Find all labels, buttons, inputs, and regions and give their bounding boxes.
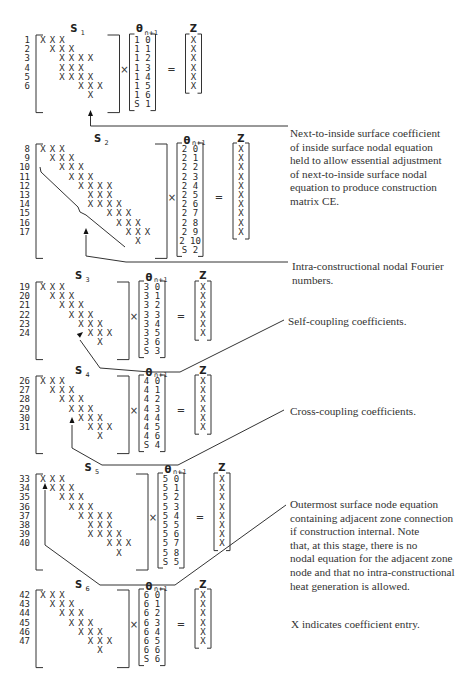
- coefficient-entry: X: [40, 35, 46, 45]
- z-left-bracket: [186, 34, 190, 93]
- z-label: Z: [199, 365, 206, 376]
- row-number: 31: [19, 422, 30, 432]
- z-right-bracket: [198, 34, 202, 93]
- left-bracket: [36, 35, 43, 113]
- left-bracket: [36, 474, 43, 570]
- coefficient-entry: X: [97, 337, 103, 347]
- coefficient-entry: X: [59, 492, 65, 502]
- theta-entry: S 2: [182, 245, 198, 255]
- theta-label: θ: [165, 464, 172, 475]
- coefficient-entry: X: [97, 431, 103, 441]
- theta-subscript: n+1: [154, 276, 168, 284]
- annotation-fourier-numbers: Intra-constructional nodal Fourier numbe…: [292, 260, 444, 287]
- z-entry: X: [200, 636, 206, 646]
- annotation-self-coupling: Self-coupling coefficients.: [288, 315, 406, 329]
- z-label: Z: [218, 462, 225, 473]
- left-bracket: [36, 282, 43, 360]
- matrix-subscript: 5: [95, 468, 99, 476]
- legend-coefficient-entry: X indicates coefficient entry.: [291, 618, 420, 632]
- theta-right-bracket: [160, 589, 165, 666]
- coefficient-entry: X: [126, 538, 132, 548]
- multiply-sign: ×: [168, 192, 176, 203]
- construction-matrix-diagram: 123456XXXXXXXXXXXXXXXXXXXXXS11 01 11 21 …: [0, 0, 468, 690]
- coefficient-entry: X: [88, 90, 94, 100]
- row-number: 47: [19, 636, 30, 646]
- coefficient-entry: X: [88, 636, 94, 646]
- coefficient-entry: X: [126, 227, 132, 237]
- coefficient-entry: X: [40, 590, 46, 600]
- arrowhead-icon: [77, 332, 83, 338]
- coefficient-entry: X: [97, 199, 103, 209]
- theta-entry: S 5: [163, 557, 179, 567]
- coefficient-entry: X: [78, 181, 84, 191]
- leader-cross-coupling: [72, 410, 284, 465]
- z-right-bracket: [226, 473, 230, 551]
- multiply-sign: ×: [149, 512, 157, 523]
- right-bracket: [108, 35, 120, 113]
- coefficient-entry: X: [78, 319, 84, 329]
- theta-entry: S 3: [144, 346, 160, 356]
- matrix-block-s1: 123456XXXXXXXXXXXXXXXXXXXXXS11 01 11 21 …: [25, 23, 202, 113]
- theta-subscript: n+1: [173, 468, 187, 476]
- equals-sign: =: [196, 512, 204, 523]
- z-right-bracket: [207, 589, 211, 648]
- coefficient-entry: X: [40, 144, 46, 154]
- z-right-bracket: [245, 143, 249, 239]
- z-entry: X: [200, 328, 206, 338]
- coefficient-entry: X: [69, 502, 75, 512]
- coefficient-entry: X: [50, 44, 56, 54]
- coefficient-entry: X: [50, 153, 56, 163]
- coefficient-entry: X: [59, 162, 65, 172]
- right-bracket: [136, 474, 148, 570]
- z-label: Z: [199, 579, 206, 590]
- theta-entry: S 1: [134, 99, 150, 109]
- row-number: 17: [19, 227, 30, 237]
- coefficient-entry: X: [88, 529, 94, 539]
- annotation-next-to-inside: Next-to-inside surface coefficient of in…: [290, 127, 442, 209]
- z-label: Z: [199, 270, 206, 281]
- coefficient-entry: X: [59, 300, 65, 310]
- z-right-bracket: [207, 375, 211, 434]
- right-bracket: [117, 376, 129, 454]
- row-number: 24: [19, 328, 30, 338]
- matrix-label: S: [70, 23, 77, 34]
- z-label: Z: [190, 23, 197, 34]
- right-bracket: [117, 590, 129, 668]
- matrix-block-s3: 192021222324XXXXXXXXXXXXXXXXXXXS33 03 13…: [19, 270, 211, 360]
- multiply-sign: ×: [130, 619, 138, 630]
- row-number: 6: [25, 81, 30, 91]
- coefficient-entry: X: [59, 608, 65, 618]
- right-bracket: [155, 144, 167, 258]
- theta-label: θ: [184, 135, 191, 146]
- coefficient-entry: X: [97, 81, 103, 91]
- matrix-subscript: 2: [105, 139, 109, 147]
- coefficient-entry: X: [69, 404, 75, 414]
- matrix-subscript: 3: [86, 276, 90, 284]
- coefficient-entry: X: [69, 310, 75, 320]
- coefficient-entry: X: [78, 511, 84, 521]
- coefficient-entry: X: [50, 385, 56, 395]
- coefficient-entry: X: [78, 81, 84, 91]
- coefficient-entry: X: [50, 599, 56, 609]
- z-entry: X: [191, 81, 197, 91]
- coefficient-entry: X: [107, 422, 113, 432]
- arrowhead-icon: [84, 228, 89, 234]
- equals-sign: =: [177, 619, 185, 630]
- coefficient-entry: X: [145, 227, 151, 237]
- theta-label: θ: [146, 581, 153, 592]
- z-left-bracket: [214, 473, 218, 551]
- z-left-bracket: [233, 143, 237, 239]
- coefficient-entry: X: [40, 282, 46, 292]
- coefficient-entry: X: [135, 236, 141, 246]
- matrix-label: S: [75, 579, 82, 590]
- left-bracket: [36, 590, 43, 668]
- z-entry: X: [200, 422, 206, 432]
- theta-right-bracket: [160, 375, 165, 452]
- matrix-label: S: [75, 365, 82, 376]
- multiply-sign: ×: [130, 311, 138, 322]
- z-right-bracket: [207, 281, 211, 340]
- coefficient-entry: X: [78, 413, 84, 423]
- theta-right-bracket: [151, 34, 156, 111]
- annotation-cross-coupling: Cross-coupling coefficients.: [290, 405, 416, 419]
- arrowhead-icon: [88, 110, 93, 116]
